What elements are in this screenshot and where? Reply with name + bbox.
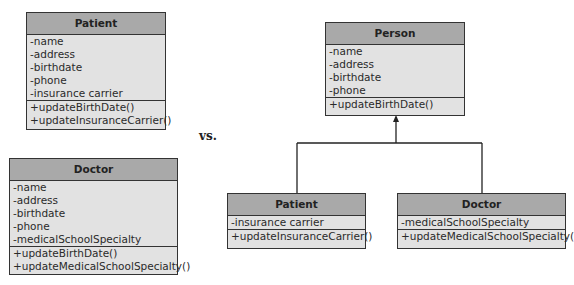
- methods-section: +updateInsuranceCarrier(): [228, 230, 365, 243]
- class-patient-subclass: Patient -insurance carrier +updateInsura…: [227, 193, 366, 249]
- class-name: Doctor: [398, 194, 565, 216]
- class-name: Person: [326, 23, 464, 45]
- attribute: -birthdate: [329, 71, 461, 84]
- class-person: Person -name -address -birthdate -phone …: [325, 22, 465, 116]
- attribute: -address: [329, 58, 461, 71]
- arrowhead-icon: [393, 115, 399, 122]
- class-doctor-subclass: Doctor -medicalSchoolSpecialty +updateMe…: [397, 193, 566, 249]
- attributes-section: -insurance carrier: [228, 216, 365, 230]
- method: +updateBirthDate(): [329, 98, 461, 111]
- attribute: -phone: [329, 84, 461, 97]
- method: +updateMedicalSchoolSpecialty(): [401, 230, 562, 243]
- attribute: -medicalSchoolSpecialty: [401, 216, 562, 229]
- attribute: -insurance carrier: [231, 216, 362, 229]
- method: +updateInsuranceCarrier(): [231, 230, 362, 243]
- attribute: -name: [329, 45, 461, 58]
- attributes-section: -name -address -birthdate -phone: [326, 45, 464, 98]
- attributes-section: -medicalSchoolSpecialty: [398, 216, 565, 230]
- methods-section: +updateBirthDate(): [326, 98, 464, 111]
- methods-section: +updateMedicalSchoolSpecialty(): [398, 230, 565, 243]
- class-name: Patient: [228, 194, 365, 216]
